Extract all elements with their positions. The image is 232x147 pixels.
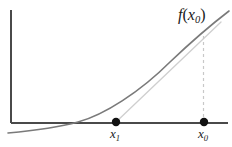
x1-label-subscript: 1 [116, 133, 120, 143]
x0-axis-label: x0 [198, 127, 208, 142]
secant-line [116, 22, 221, 122]
x1-axis-label: x1 [110, 127, 120, 142]
x0-point-marker [200, 118, 208, 126]
function-value-arg-base: x [188, 6, 195, 23]
function-value-paren-close: ) [200, 6, 205, 23]
math-figure: f(x0) x1 x0 [0, 0, 232, 147]
x1-point-marker [112, 118, 120, 126]
x0-label-subscript: 0 [204, 133, 208, 143]
function-value-label: f(x0) [178, 7, 206, 26]
function-curve [8, 11, 229, 133]
